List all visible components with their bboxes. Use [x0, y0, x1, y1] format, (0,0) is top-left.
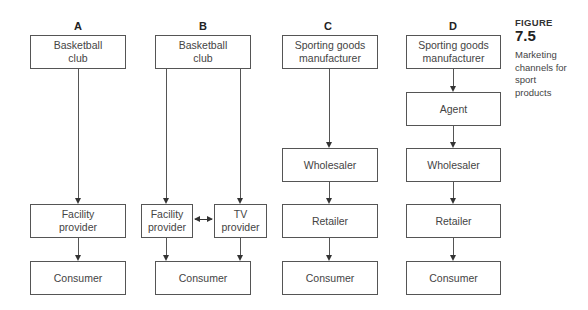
- node-d-agent: Agent: [406, 92, 501, 126]
- figure-caption: Marketing channels for sport products: [515, 49, 575, 99]
- edge-c-manufacturer-wholesaler: [329, 69, 330, 142]
- column-label-c: C: [318, 20, 338, 32]
- edge-b-tv-consumer: [240, 238, 241, 255]
- edge-a-facility-consumer: [78, 238, 79, 255]
- arrow-left-icon: [194, 216, 200, 222]
- node-c-retailer: Retailer: [282, 204, 378, 238]
- edge-a-club-facility: [78, 69, 79, 198]
- edge-d-agent-wholesaler: [453, 126, 454, 142]
- edge-c-wholesaler-retailer: [329, 182, 330, 198]
- node-c-consumer: Consumer: [282, 261, 378, 295]
- edge-d-retailer-consumer: [453, 238, 454, 255]
- column-label-b: B: [193, 20, 213, 32]
- node-d-manufacturer: Sporting goods manufacturer: [406, 35, 501, 69]
- node-c-wholesaler: Wholesaler: [282, 148, 378, 182]
- node-d-wholesaler: Wholesaler: [406, 148, 501, 182]
- node-d-retailer: Retailer: [406, 204, 501, 238]
- node-a-basketball-club: Basketball club: [30, 35, 126, 69]
- edge-b-club-tv: [240, 69, 241, 198]
- edge-c-retailer-consumer: [329, 238, 330, 255]
- node-b-consumer: Consumer: [155, 261, 251, 295]
- edge-b-club-facility: [166, 69, 167, 198]
- edge-b-facility-consumer: [166, 238, 167, 255]
- node-c-manufacturer: Sporting goods manufacturer: [282, 35, 378, 69]
- column-label-d: D: [443, 20, 463, 32]
- node-a-consumer: Consumer: [30, 261, 126, 295]
- edge-d-manufacturer-agent: [453, 69, 454, 86]
- node-a-facility-provider: Facility provider: [30, 204, 126, 238]
- node-b-facility-provider: Facility provider: [141, 204, 193, 238]
- edge-d-wholesaler-retailer: [453, 182, 454, 198]
- node-b-basketball-club: Basketball club: [155, 35, 251, 69]
- column-label-a: A: [68, 20, 88, 32]
- arrow-right-icon: [207, 216, 213, 222]
- node-d-consumer: Consumer: [406, 261, 501, 295]
- figure-number: 7.5: [515, 27, 536, 44]
- node-b-tv-provider: TV provider: [214, 204, 267, 238]
